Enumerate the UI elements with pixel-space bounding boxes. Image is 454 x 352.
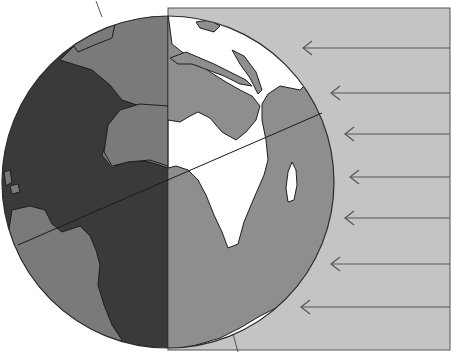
earth-illumination-diagram <box>0 0 454 352</box>
night-hemisphere <box>0 0 168 352</box>
axis-segment <box>96 1 102 17</box>
